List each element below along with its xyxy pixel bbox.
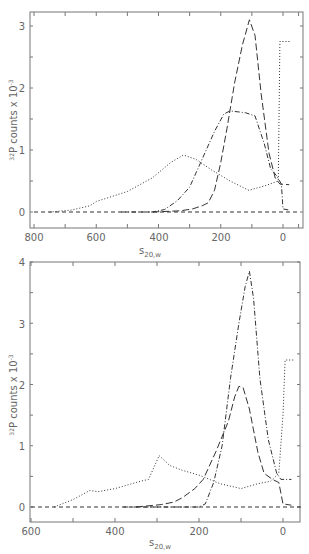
y-tick-label: 3 — [19, 21, 25, 32]
series-line-dotted — [54, 360, 293, 507]
y-tick-label: 0 — [19, 207, 25, 218]
top-chart-ticks — [30, 12, 303, 228]
series-line-dotted — [50, 42, 291, 213]
y-tick-label: 3 — [19, 319, 25, 330]
y-tick-label: 2 — [19, 83, 25, 94]
y-tick-label: 0 — [19, 502, 25, 513]
series-line-dashed — [136, 386, 291, 507]
figure-canvas: 800 600 400 200 0 0 1 2 3 s20,w 32P coun… — [0, 0, 309, 554]
x-tick-label: 0 — [280, 232, 286, 243]
top-x-tick-labels: 800 600 400 200 0 — [24, 232, 286, 243]
bottom-chart-plot-area — [31, 271, 304, 507]
bottom-y-axis-title: 32P counts x 10-3 — [7, 354, 19, 435]
x-tick-label: 200 — [211, 232, 230, 243]
top-chart-frame — [30, 12, 303, 228]
top-y-axis-title: 32P counts x 10-3 — [7, 79, 19, 160]
bottom-x-tick-labels: 600 400 200 0 — [21, 526, 286, 537]
series-line-dash-dot — [121, 111, 289, 212]
top-chart-plot-area — [34, 20, 299, 212]
y-tick-label: 1 — [19, 441, 25, 452]
top-x-axis-title: s20,w — [139, 245, 161, 259]
x-tick-label: 400 — [105, 526, 124, 537]
y-tick-label: 1 — [19, 145, 25, 156]
series-line-dashed — [152, 20, 289, 212]
x-tick-label: 0 — [280, 526, 286, 537]
x-tick-label: 600 — [86, 232, 105, 243]
x-tick-label: 600 — [21, 526, 40, 537]
top-y-tick-labels: 0 1 2 3 — [19, 21, 25, 218]
series-line-dash-dot — [123, 271, 291, 507]
y-tick-label: 4 — [19, 257, 25, 268]
x-tick-label: 400 — [149, 232, 168, 243]
bottom-chart: 600 400 200 0 0 1 2 3 4 s20,w 32P counts… — [7, 257, 304, 551]
x-tick-label: 200 — [189, 526, 208, 537]
bottom-x-axis-title: s20,w — [149, 537, 171, 551]
bottom-y-tick-labels: 0 1 2 3 4 — [19, 257, 25, 513]
x-tick-label: 800 — [24, 232, 43, 243]
top-chart: 800 600 400 200 0 0 1 2 3 s20,w 32P coun… — [7, 12, 303, 259]
y-tick-label: 2 — [19, 380, 25, 391]
